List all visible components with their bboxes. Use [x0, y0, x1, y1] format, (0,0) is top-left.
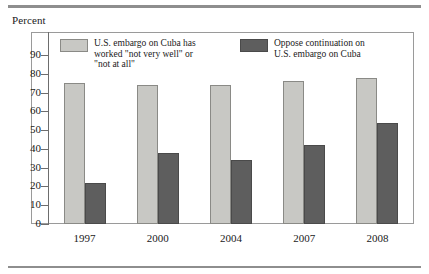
x-axis-label-2000: 2000: [128, 232, 188, 244]
y-tick-label-wrap-90: 90: [0, 49, 41, 60]
legend-label-2: Oppose continuation on U.S. embargo on C…: [274, 38, 365, 59]
y-tick-label-50: 50: [15, 124, 41, 135]
x-axis-label-2007: 2007: [274, 232, 334, 244]
y-tick-label-wrap-20: 20: [0, 180, 41, 191]
y-tick-label-90: 90: [15, 49, 41, 60]
y-tick-0: [41, 224, 49, 225]
y-tick-label-wrap-50: 50: [0, 124, 41, 135]
y-tick-label-wrap-80: 80: [0, 68, 41, 79]
y-axis-title: Percent: [12, 14, 46, 26]
y-tick-label-wrap-60: 60: [0, 105, 41, 116]
y-tick-90: [41, 55, 49, 56]
y-tick-20: [41, 186, 49, 187]
y-tick-label-60: 60: [15, 105, 41, 116]
y-tick-label-40: 40: [15, 143, 41, 154]
y-tick-label-wrap-70: 70: [0, 87, 41, 98]
y-tick-60: [41, 111, 49, 112]
x-axis-label-2008: 2008: [347, 232, 407, 244]
x-axis-label-2004: 2004: [201, 232, 261, 244]
y-tick-label-80: 80: [15, 68, 41, 79]
bottom-rule: [8, 266, 421, 268]
y-tick-label-30: 30: [15, 162, 41, 173]
legend-swatch-light-gray: [60, 39, 88, 52]
y-tick-label-wrap-10: 10: [0, 199, 41, 210]
y-tick-30: [41, 168, 49, 169]
y-tick-80: [41, 74, 49, 75]
y-tick-50: [41, 130, 49, 131]
y-tick-label-0: 0: [15, 218, 41, 229]
y-tick-10: [41, 205, 49, 206]
legend-swatch-dark-gray: [240, 39, 268, 52]
y-tick-label-wrap-40: 40: [0, 143, 41, 154]
y-tick-70: [41, 93, 49, 94]
y-tick-label-20: 20: [15, 180, 41, 191]
legend-label-1: U.S. embargo on Cuba has worked "not ver…: [94, 38, 196, 70]
x-axis-label-1997: 1997: [55, 232, 115, 244]
y-tick-label-wrap-0: 0: [0, 218, 41, 229]
legend-entry-embargo-not-worked: U.S. embargo on Cuba has worked "not ver…: [60, 38, 196, 70]
top-rule: [8, 5, 421, 8]
y-tick-label-wrap-30: 30: [0, 162, 41, 173]
y-axis-line: [48, 32, 49, 224]
y-tick-40: [41, 149, 49, 150]
legend-entry-oppose-continuation: Oppose continuation on U.S. embargo on C…: [240, 38, 365, 59]
y-tick-label-10: 10: [15, 199, 41, 210]
y-tick-label-70: 70: [15, 87, 41, 98]
